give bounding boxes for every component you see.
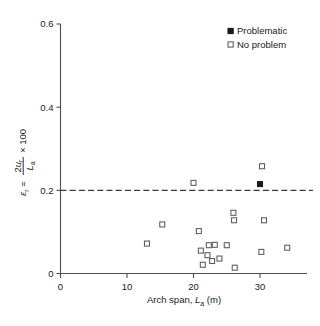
x-tick-label: 30 xyxy=(255,281,266,292)
data-point xyxy=(217,256,222,261)
data-point xyxy=(191,180,196,185)
data-point xyxy=(258,182,263,187)
data-point xyxy=(206,243,211,248)
data-point xyxy=(144,241,149,246)
data-point xyxy=(210,259,215,264)
y-tick-label: 0 xyxy=(48,268,53,279)
x-tick-label: 10 xyxy=(122,281,133,292)
legend-label: Problematic xyxy=(237,25,287,36)
data-point xyxy=(198,248,203,253)
y-axis-title-symbol-group: εr = xyxy=(17,181,30,196)
series-problematic xyxy=(258,182,263,187)
data-point xyxy=(260,164,265,169)
x-tick-label: 0 xyxy=(58,281,63,292)
data-point xyxy=(259,249,264,254)
y-axis-title-multiplier: × 100 xyxy=(17,129,28,153)
y-tick-label: 0.2 xyxy=(40,185,53,196)
chart-figure: 00.20.40.6 0102030 Arch span, La (m) εr … xyxy=(0,0,320,326)
legend-marker-problematic xyxy=(228,28,233,33)
data-point xyxy=(285,245,290,250)
scatter-plot: 00.20.40.6 0102030 Arch span, La (m) εr … xyxy=(0,0,320,326)
data-point xyxy=(231,210,236,215)
data-point xyxy=(205,253,210,258)
y-axis-title-den-sub: a xyxy=(29,161,36,165)
x-axis-title-suffix: (m) xyxy=(204,294,221,305)
x-tick-label: 20 xyxy=(188,281,199,292)
y-tick-label: 0.4 xyxy=(40,102,53,113)
x-axis-title: Arch span, La (m) xyxy=(147,294,221,307)
y-axis-title-equals: = xyxy=(17,181,28,187)
legend-marker-no-problem xyxy=(228,42,233,47)
data-point xyxy=(261,218,266,223)
legend-label: No problem xyxy=(237,39,286,50)
data-point xyxy=(196,229,201,234)
data-point xyxy=(232,265,237,270)
data-point xyxy=(200,262,205,267)
data-point xyxy=(224,243,229,248)
x-axis-title-prefix: Arch span, xyxy=(147,294,195,305)
data-point xyxy=(212,242,217,247)
data-point xyxy=(160,222,165,227)
data-point xyxy=(232,218,237,223)
y-tick-label: 0.6 xyxy=(40,18,53,29)
